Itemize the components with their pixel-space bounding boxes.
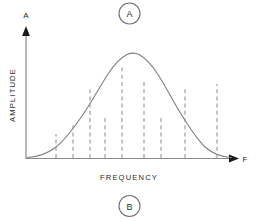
callout-top-label: A (126, 9, 132, 19)
x-axis-arrowhead (229, 154, 239, 162)
y-axis-symbol: A (23, 11, 29, 20)
y-axis: A (22, 11, 30, 159)
x-axis-symbol: F (242, 155, 247, 164)
spectrum-curve (27, 53, 232, 158)
y-axis-arrowhead (22, 26, 30, 36)
frequency-amplitude-diagram: A A F AMPLITUDE FREQUENCY (0, 0, 259, 221)
callout-bottom-label: B (126, 202, 132, 212)
callout-top: A (119, 3, 140, 24)
x-axis-title: FREQUENCY (100, 173, 158, 182)
callout-bottom: B (119, 196, 140, 217)
y-axis-title: AMPLITUDE (8, 68, 17, 122)
sampling-marker-group (56, 66, 217, 158)
x-axis: F (25, 154, 247, 163)
figure-root: A A F AMPLITUDE FREQUENCY (0, 0, 259, 221)
